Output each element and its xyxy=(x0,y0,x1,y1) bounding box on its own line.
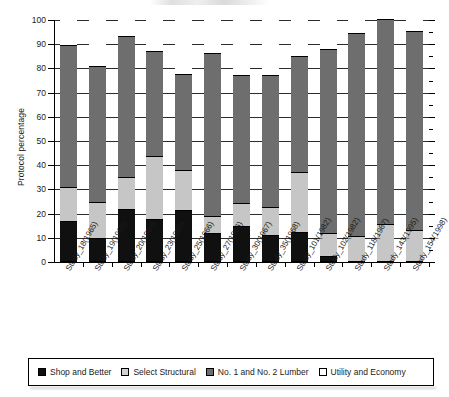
segment-divider xyxy=(60,221,77,222)
bar-segment-utility-Study_154(1998)[interactable] xyxy=(406,19,423,32)
legend-label: Select Structural xyxy=(133,367,195,377)
right-tick-100 xyxy=(429,20,435,21)
segment-divider xyxy=(204,53,221,54)
segment-divider xyxy=(175,170,192,171)
segment-divider xyxy=(233,75,250,76)
segment-divider xyxy=(233,203,250,204)
bar-segment-lumber-Study_25(1966)[interactable] xyxy=(175,75,192,172)
bar-segment-select-Study_18(1965)[interactable] xyxy=(60,188,77,222)
segment-divider xyxy=(60,187,77,188)
y-tick-100 xyxy=(48,20,55,21)
x-tick-7 xyxy=(256,263,257,267)
y-tick-label-70: 70 xyxy=(20,89,46,97)
bar-segment-lumber-Study_18(1965)[interactable] xyxy=(60,46,77,189)
x-tick-5 xyxy=(198,263,199,267)
bar-segment-lumber-Study_23(1965)[interactable] xyxy=(146,52,163,157)
bar-segment-select-Study_23(1965)[interactable] xyxy=(146,157,163,220)
bar-segment-lumber-Study_154(1998)[interactable] xyxy=(406,32,423,230)
y-tick-70 xyxy=(48,93,55,94)
legend-swatch-no-1-and-no-2-lumber xyxy=(206,368,214,376)
legend-swatch-utility-and-economy xyxy=(319,368,327,376)
x-tick-13 xyxy=(429,263,430,267)
x-tick-3 xyxy=(141,263,142,267)
bar-segment-lumber-Study_20(1965)[interactable] xyxy=(118,37,135,177)
segment-divider xyxy=(118,177,135,178)
y-tick-90 xyxy=(48,44,55,45)
bar-segment-lumber-Study_27(1966)[interactable] xyxy=(204,54,221,217)
bar-segment-utility-Study_102(1982)[interactable] xyxy=(320,19,337,50)
bar-segment-lumber-Study_101(1982)[interactable] xyxy=(291,57,308,173)
right-tick-20 xyxy=(429,214,435,215)
right-minor-tick-55 xyxy=(429,129,433,130)
segment-divider xyxy=(262,75,279,76)
right-minor-tick-35 xyxy=(429,177,433,178)
bar-segment-utility-Study_27(1966)[interactable] xyxy=(204,19,221,54)
y-tick-label-50: 50 xyxy=(20,137,46,145)
y-tick-label-30: 30 xyxy=(20,185,46,193)
bar-segment-lumber-Study_35(1968)[interactable] xyxy=(262,76,279,208)
right-minor-tick-15 xyxy=(429,226,433,227)
bar-segment-select-Study_25(1966)[interactable] xyxy=(175,171,192,211)
x-tick-8 xyxy=(285,263,286,267)
legend-label: No. 1 and No. 2 Lumber xyxy=(218,367,309,377)
x-tick-12 xyxy=(400,263,401,267)
y-tick-label-60: 60 xyxy=(20,113,46,121)
bar-segment-lumber-Study_143(1995)[interactable] xyxy=(377,20,394,224)
x-tick-1 xyxy=(83,263,84,267)
right-tick-60 xyxy=(429,117,435,118)
right-tick-80 xyxy=(429,68,435,69)
right-tick-30 xyxy=(429,189,435,190)
right-tick-40 xyxy=(429,165,435,166)
bar-segment-utility-Study_30(1967)[interactable] xyxy=(233,19,250,76)
legend-item-shop-and-better[interactable]: Shop and Better xyxy=(38,367,111,377)
x-tick-9 xyxy=(314,263,315,267)
legend-item-select-structural[interactable]: Select Structural xyxy=(121,367,195,377)
segment-divider xyxy=(262,207,279,208)
y-tick-50 xyxy=(48,141,55,142)
segment-divider xyxy=(175,74,192,75)
right-minor-tick-5 xyxy=(429,250,433,251)
segment-divider xyxy=(291,172,308,173)
right-tick-50 xyxy=(429,141,435,142)
y-tick-30 xyxy=(48,189,55,190)
bar-segment-select-Study_20(1965)[interactable] xyxy=(118,178,135,211)
bar-segment-utility-Study_20(1965)[interactable] xyxy=(118,19,135,37)
bar-segment-utility-Study_118(1987)[interactable] xyxy=(348,19,365,34)
bar-segment-lumber-Study_102(1982)[interactable] xyxy=(320,50,337,234)
bar-segment-utility-Study_19(1965)[interactable] xyxy=(89,19,106,67)
right-minor-tick-75 xyxy=(429,81,433,82)
bar-segment-lumber-Study_19(1965)[interactable] xyxy=(89,67,106,203)
segment-divider xyxy=(60,45,77,46)
y-tick-20 xyxy=(48,214,55,215)
y-tick-0 xyxy=(48,262,55,263)
legend-item-no-1-and-no-2-lumber[interactable]: No. 1 and No. 2 Lumber xyxy=(206,367,309,377)
y-tick-label-20: 20 xyxy=(20,210,46,218)
cut-off-caption-trace xyxy=(150,0,270,5)
right-minor-tick-45 xyxy=(429,153,433,154)
segment-divider xyxy=(146,156,163,157)
x-tick-6 xyxy=(227,263,228,267)
segment-divider xyxy=(89,66,106,67)
bar-segment-lumber-Study_118(1987)[interactable] xyxy=(348,34,365,237)
chart-legend: Shop and BetterSelect StructuralNo. 1 an… xyxy=(28,358,434,386)
segment-divider xyxy=(118,36,135,37)
bar-segment-lumber-Study_30(1967)[interactable] xyxy=(233,76,250,204)
segment-divider xyxy=(406,31,423,32)
bar-Study_18(1965)[interactable] xyxy=(60,20,77,262)
legend-label: Shop and Better xyxy=(50,367,111,377)
bar-segment-utility-Study_101(1982)[interactable] xyxy=(291,19,308,57)
segment-divider xyxy=(204,216,221,217)
x-tick-11 xyxy=(371,263,372,267)
bar-segment-utility-Study_35(1968)[interactable] xyxy=(262,19,279,76)
legend-shadow xyxy=(30,387,436,389)
bar-segment-utility-Study_23(1965)[interactable] xyxy=(146,19,163,52)
bar-segment-utility-Study_25(1966)[interactable] xyxy=(175,19,192,75)
segment-divider xyxy=(146,51,163,52)
segment-divider xyxy=(291,56,308,57)
segment-divider xyxy=(89,202,106,203)
segment-divider xyxy=(118,209,135,210)
x-tick-10 xyxy=(342,263,343,267)
bar-segment-utility-Study_18(1965)[interactable] xyxy=(60,19,77,46)
legend-item-utility-and-economy[interactable]: Utility and Economy xyxy=(319,367,406,377)
right-tick-90 xyxy=(429,44,435,45)
